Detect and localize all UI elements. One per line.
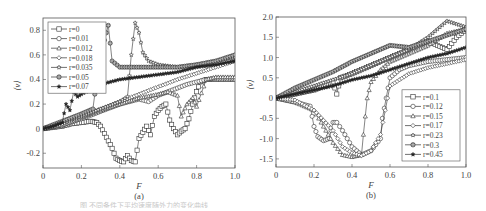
x-axis-label: F	[367, 180, 374, 190]
chart-panel-a: 00.20.40.60.81.0-0.200.20.40.60.8F(a)⟨v⟩…	[12, 18, 240, 201]
x-tick-label: 0	[41, 171, 45, 181]
y-tick-label: 0.2	[29, 99, 40, 109]
chart-canvas: 00.20.40.60.81.0-0.200.20.40.60.8F(a)⟨v⟩…	[0, 0, 486, 211]
legend-label: r=0.035	[69, 63, 93, 72]
y-tick-label: 1.0	[262, 53, 273, 63]
legend: r=0r=0.01r=0.012r=0.018r=0.035r=0.05r=0.…	[48, 22, 106, 93]
x-tick-label: 1.0	[461, 170, 472, 180]
legend: r=0.1r=0.12r=0.15r=0.17r=0.23r=0.3r=0.45	[402, 90, 460, 161]
x-tick-label: 0.2	[76, 171, 87, 181]
x-tick-label: 0.2	[309, 170, 320, 180]
x-tick-label: 0.6	[153, 171, 164, 181]
legend-label: r=0.01	[69, 34, 89, 43]
legend-label: r=0.17	[423, 121, 443, 130]
legend-label: r=0.12	[423, 102, 443, 111]
x-axis-label: F	[135, 181, 142, 191]
x-tick-label: 1.0	[230, 171, 241, 181]
figure-caption: 图 不同条件下平均速度随外力的变化曲线	[80, 200, 480, 208]
panel-label: (b)	[366, 190, 376, 200]
x-tick-label: 0.4	[347, 170, 358, 180]
y-tick-label: -0.5	[260, 113, 273, 123]
x-tick-label: 0.4	[114, 171, 125, 181]
y-tick-label: 0.4	[29, 74, 40, 84]
y-tick-label: -1.5	[260, 154, 273, 164]
legend-label: r=0.23	[423, 131, 443, 140]
x-tick-label: 0.8	[423, 170, 434, 180]
x-tick-label: 0	[274, 170, 278, 180]
y-tick-label: 0	[269, 93, 273, 103]
y-axis-label: ⟨v⟩	[245, 79, 255, 89]
x-tick-label: 0.8	[191, 171, 202, 181]
y-tick-label: 2.0	[262, 12, 273, 22]
legend-label: r=0.018	[69, 54, 93, 63]
legend-label: r=0.15	[423, 112, 443, 121]
x-tick-label: 0.6	[385, 170, 396, 180]
legend-label: r=0.3	[423, 141, 439, 150]
legend-label: r=0.07	[69, 82, 89, 91]
figure: 00.20.40.60.81.0-0.200.20.40.60.8F(a)⟨v⟩…	[0, 0, 486, 211]
chart-panel-b: 00.20.40.60.81.0-1.5-1.0-0.500.51.01.52.…	[245, 12, 471, 200]
legend-label: r=0.05	[69, 73, 89, 82]
y-tick-label: 0	[36, 124, 40, 134]
y-tick-label: -1.0	[260, 134, 273, 144]
legend-label: r=0	[69, 25, 80, 34]
y-tick-label: 0.5	[262, 73, 273, 83]
y-tick-label: 1.5	[262, 32, 273, 42]
y-tick-label: -0.2	[27, 148, 40, 158]
legend-label: r=0.1	[423, 93, 439, 102]
y-tick-label: 0.6	[29, 50, 40, 60]
legend-label: r=0.012	[69, 44, 93, 53]
legend-label: r=0.45	[423, 150, 443, 159]
y-axis-label: ⟨v⟩	[12, 80, 22, 90]
y-tick-label: 0.8	[29, 25, 40, 35]
